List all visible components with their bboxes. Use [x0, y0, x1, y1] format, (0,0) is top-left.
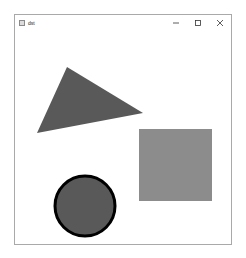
maximize-icon	[195, 20, 201, 26]
title-bar[interactable]: dst	[15, 15, 231, 31]
app-window: dst	[14, 14, 232, 245]
triangle-shape	[37, 67, 143, 133]
window-title: dst	[28, 20, 35, 26]
minimize-icon	[173, 20, 179, 26]
minimize-button[interactable]	[165, 15, 187, 31]
window-controls	[165, 15, 231, 31]
app-icon	[19, 20, 25, 26]
close-button[interactable]	[209, 15, 231, 31]
maximize-button[interactable]	[187, 15, 209, 31]
circle-shape	[55, 176, 115, 236]
drawing-canvas	[15, 31, 231, 244]
square-shape	[139, 129, 212, 201]
close-icon	[217, 20, 223, 26]
